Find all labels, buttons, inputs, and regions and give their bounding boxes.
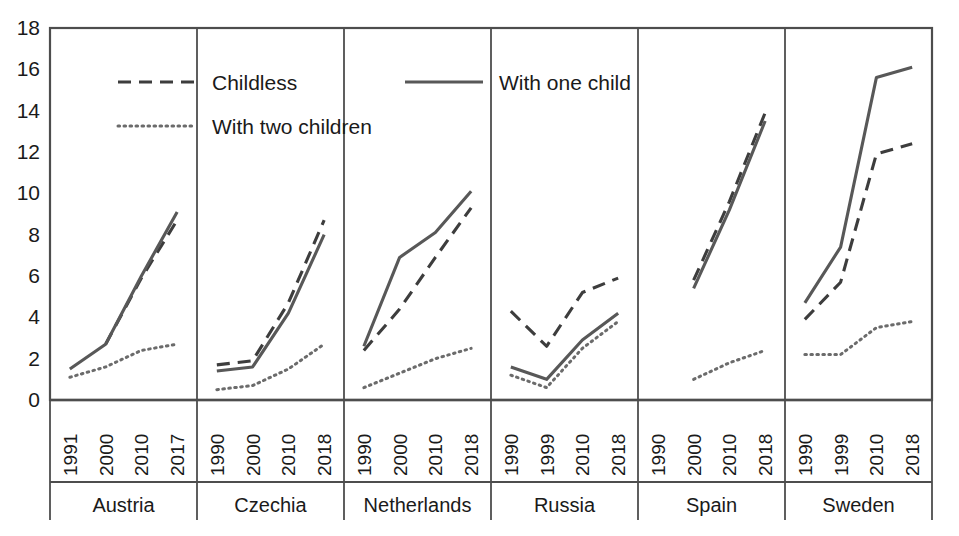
y-tick-label: 4 <box>28 305 40 328</box>
y-tick-label: 10 <box>17 181 40 204</box>
series-line <box>694 113 766 280</box>
series-line <box>364 208 471 351</box>
chart-container: 024681012141618 1991200020102017Austria1… <box>0 0 959 536</box>
x-axis-layer: 1991200020102017Austria1990200020102018C… <box>50 400 932 520</box>
grouped-line-chart: 024681012141618 1991200020102017Austria1… <box>0 0 959 536</box>
series-line <box>805 321 912 354</box>
series-line <box>70 212 177 369</box>
group-label-russia: Russia <box>534 494 596 516</box>
series-line <box>511 313 618 379</box>
x-tick-label: 2000 <box>684 434 705 476</box>
plot-frame <box>50 28 932 400</box>
x-tick-label: 1990 <box>207 434 228 476</box>
x-tick-label: 1990 <box>501 434 522 476</box>
x-tick-label: 2018 <box>755 434 776 476</box>
x-tick-label: 1990 <box>354 434 375 476</box>
series-line <box>364 348 471 387</box>
x-tick-label: 1991 <box>60 434 81 476</box>
x-tick-label: 2010 <box>131 434 152 476</box>
group-label-czechia: Czechia <box>234 494 307 516</box>
y-tick-label: 6 <box>28 264 40 287</box>
x-tick-label: 2010 <box>719 434 740 476</box>
series-line <box>694 121 766 288</box>
series-line <box>805 144 912 320</box>
group-label-netherlands: Netherlands <box>364 494 472 516</box>
series-line <box>511 321 618 387</box>
y-tick-label: 12 <box>17 140 40 163</box>
x-tick-label: 1999 <box>831 434 852 476</box>
x-tick-label: 1990 <box>795 434 816 476</box>
x-tick-label: 2000 <box>243 434 264 476</box>
series-line <box>511 278 618 346</box>
legend-label: With one child <box>499 71 631 94</box>
group-label-spain: Spain <box>686 494 737 516</box>
legend-label: Childless <box>212 71 297 94</box>
series-line <box>364 191 471 346</box>
x-tick-label: 2018 <box>314 434 335 476</box>
series-line <box>217 220 324 365</box>
group-label-austria: Austria <box>92 494 155 516</box>
y-tick-label: 16 <box>17 57 40 80</box>
y-axis-tick-labels: 024681012141618 <box>17 16 41 411</box>
x-tick-label: 2010 <box>425 434 446 476</box>
x-tick-label: 2010 <box>278 434 299 476</box>
x-tick-label: 1990 <box>648 434 669 476</box>
y-tick-label: 14 <box>17 99 41 122</box>
x-tick-label: 2018 <box>461 434 482 476</box>
x-tick-label: 2018 <box>902 434 923 476</box>
x-tick-label: 2018 <box>608 434 629 476</box>
x-tick-label: 2000 <box>390 434 411 476</box>
series-line <box>70 344 177 377</box>
group-label-sweden: Sweden <box>822 494 894 516</box>
legend-label: With two children <box>212 115 372 138</box>
x-tick-label: 2010 <box>866 434 887 476</box>
series-line <box>217 344 324 389</box>
y-tick-label: 18 <box>17 16 40 39</box>
x-tick-label: 2017 <box>167 434 188 476</box>
x-tick-label: 2010 <box>572 434 593 476</box>
series-line <box>694 350 766 379</box>
y-tick-label: 8 <box>28 223 40 246</box>
chart-legend: ChildlessWith one childWith two children <box>118 71 631 138</box>
x-tick-label: 2000 <box>96 434 117 476</box>
y-tick-label: 0 <box>28 388 40 411</box>
series-line <box>805 67 912 303</box>
x-tick-label: 1999 <box>537 434 558 476</box>
y-tick-label: 2 <box>28 347 40 370</box>
